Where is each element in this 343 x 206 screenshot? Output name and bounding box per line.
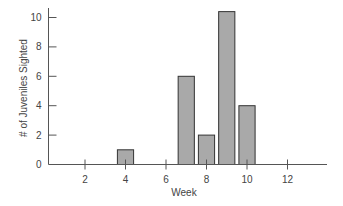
x-tick-label: 8 bbox=[204, 174, 210, 185]
y-axis-title: # of Juveniles Sighted bbox=[18, 39, 29, 137]
bar-chart: 24681012 0246810 Week # of Juveniles Sig… bbox=[0, 0, 343, 206]
bars-group bbox=[117, 12, 255, 165]
y-tick-label: 8 bbox=[36, 41, 42, 52]
x-tick-label: 4 bbox=[123, 174, 129, 185]
x-axis-title: Week bbox=[171, 187, 197, 198]
y-tick-label: 10 bbox=[30, 12, 42, 23]
y-tick-label: 0 bbox=[36, 159, 42, 170]
y-axis-ticks: 0246810 bbox=[30, 12, 56, 170]
bar-week-9 bbox=[219, 12, 235, 165]
x-tick-label: 2 bbox=[82, 174, 88, 185]
y-tick-label: 4 bbox=[36, 100, 42, 111]
x-tick-label: 12 bbox=[282, 174, 294, 185]
bar-week-10 bbox=[239, 106, 255, 165]
y-tick-label: 2 bbox=[36, 130, 42, 141]
x-tick-label: 10 bbox=[241, 174, 253, 185]
bar-week-7 bbox=[178, 76, 194, 164]
x-tick-label: 6 bbox=[163, 174, 169, 185]
y-tick-label: 6 bbox=[36, 71, 42, 82]
